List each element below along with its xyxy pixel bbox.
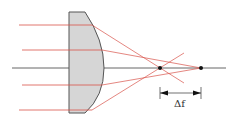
marginal-focus-point [158, 66, 162, 70]
ray-inner-top-out [102, 50, 201, 68]
plano-convex-lens [69, 12, 104, 113]
paraxial-focus-point [199, 66, 203, 70]
spherical-aberration-diagram [0, 0, 235, 130]
arrow-right-icon [193, 91, 201, 96]
ray-inner-bottom-out [102, 68, 201, 85]
delta-f-label: Δf [174, 98, 185, 109]
arrow-left-icon [160, 91, 168, 96]
ray-outer-bottom-out [92, 53, 184, 110]
ray-outer-top-out [92, 25, 184, 83]
